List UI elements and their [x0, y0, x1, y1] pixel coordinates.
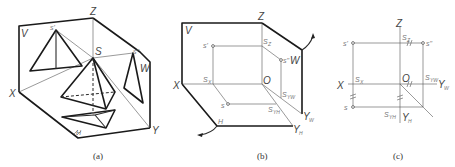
- arrowhead-w: [311, 33, 315, 39]
- pyramid-hidden-edge: [61, 92, 115, 97]
- point-s-front-b: [212, 45, 215, 48]
- proj-line: [262, 46, 281, 60]
- label-yh-sub-c: H: [408, 118, 412, 124]
- label-s-side-c: s'': [426, 40, 433, 47]
- label-sx-sub-b: X: [207, 79, 212, 85]
- label-w-b: W: [290, 55, 301, 66]
- point-s-side-c: [422, 42, 425, 45]
- panel-b: V Z s' S Z s'' W X S X O S YW s S YH Y W…: [172, 11, 315, 161]
- label-sz-sub-b: Z: [267, 41, 272, 47]
- label-syw-sub-b: YW: [287, 94, 296, 100]
- label-yh-sub-b: H: [299, 130, 303, 136]
- label-s-front: s': [50, 24, 56, 31]
- projector-s-front: [56, 30, 93, 58]
- label-v-b: V: [185, 25, 193, 36]
- label-s-side-b: s'': [283, 57, 290, 64]
- label-x: X: [8, 88, 16, 99]
- h-plane-outline-a: [19, 92, 150, 138]
- label-w: W: [140, 63, 151, 74]
- point-s-side-b: [280, 59, 283, 62]
- label-y: Y: [152, 125, 160, 136]
- label-z-c: Z: [395, 18, 403, 29]
- label-syh-sub-b: YH: [273, 109, 280, 115]
- label-yw-sub-c: W: [444, 85, 450, 91]
- label-sz-sub-c: Z: [406, 37, 411, 43]
- label-x-c: X: [336, 80, 344, 91]
- label-x-b: X: [172, 80, 180, 91]
- label-h: H: [76, 129, 82, 136]
- point-s-top-b: [227, 103, 230, 106]
- top-view-triangle: [62, 110, 115, 128]
- label-o-b: O: [263, 75, 271, 86]
- w-plane-outline-b: [262, 23, 302, 114]
- label-s-space: S: [95, 46, 102, 57]
- label-h-b: H: [218, 118, 224, 125]
- three-view-projection-diagram: V Z s' S s'' W X s H Y (a): [0, 0, 455, 167]
- caption-a: (a): [93, 151, 103, 161]
- caption-b: (b): [257, 151, 268, 161]
- label-yw-sub-b: W: [309, 117, 315, 123]
- label-s-side: s'': [133, 48, 140, 55]
- label-s-top: s: [91, 110, 95, 117]
- point-s-top-c: [352, 106, 355, 109]
- label-syh-sub-c: YH: [389, 114, 396, 120]
- proj-line: [213, 84, 228, 104]
- label-z: Z: [89, 6, 97, 17]
- yh-axis-b: [262, 84, 293, 126]
- v-plane-outline-b: [182, 23, 262, 84]
- label-v: V: [21, 28, 29, 39]
- panel-a: V Z s' S s'' W X s H Y (a): [8, 6, 160, 161]
- label-s-front-b: s': [203, 42, 209, 49]
- side-view-triangle: [124, 53, 143, 103]
- pyramid-outline: [61, 58, 115, 109]
- point-s-front-c: [352, 42, 355, 45]
- label-s-top-c: s: [344, 104, 348, 111]
- caption-c: (c): [393, 151, 403, 161]
- label-s-front-c: s': [343, 40, 349, 47]
- label-o-c: O: [402, 73, 410, 84]
- label-s-top-b: s: [221, 102, 225, 109]
- arrowhead-h: [197, 133, 203, 137]
- h-plane-outline-b: [182, 84, 293, 126]
- label-z-b: Z: [257, 11, 265, 22]
- label-sx-sub-c: X: [359, 79, 364, 85]
- panel-c: Z s' S Z s'' X S X O S YW Y W s S YH Y H…: [336, 18, 450, 161]
